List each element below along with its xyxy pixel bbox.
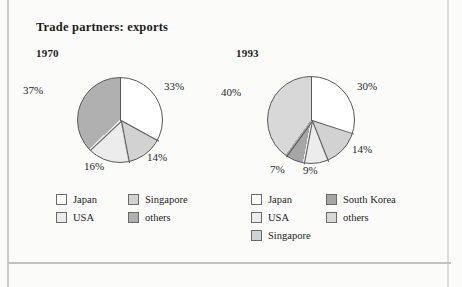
legend-label-japan: Japan — [73, 194, 97, 205]
legend-swatch-usa — [251, 212, 262, 223]
legend-item-usa[interactable]: USA — [56, 212, 128, 223]
page-border-right — [447, 0, 449, 287]
legend-label-others: others — [343, 212, 369, 223]
legend-item-usa[interactable]: USA — [251, 212, 326, 223]
pct-label-1993-korea: 7% — [270, 163, 285, 175]
pie-slice-divider — [90, 121, 122, 151]
legend-swatch-japan — [251, 194, 262, 205]
legend-item-others[interactable]: others — [128, 212, 171, 223]
page-title: Trade partners: exports — [36, 20, 168, 35]
legend-label-usa: USA — [73, 212, 94, 223]
chart-1970-year-label: 1970 — [36, 47, 59, 59]
legend-swatch-south-korea — [326, 194, 337, 205]
pct-label-1970-japan: 33% — [164, 80, 184, 92]
legend-row: USA others — [56, 208, 188, 226]
pie-slice-divider — [121, 120, 159, 142]
pct-label-1993-singapore: 14% — [352, 143, 372, 155]
pct-label-1993-japan: 30% — [357, 80, 377, 92]
pct-label-1970-others: 37% — [23, 84, 43, 96]
pct-label-1993-others: 40% — [221, 86, 241, 98]
legend-swatch-japan — [56, 194, 67, 205]
legend-label-usa: USA — [268, 212, 289, 223]
legend-row: Singapore — [251, 226, 396, 244]
legend-item-singapore[interactable]: Singapore — [251, 230, 311, 241]
legend-swatch-others — [128, 212, 139, 223]
legend-row: Japan South Korea — [251, 190, 396, 208]
legend-row: USA others — [251, 208, 396, 226]
pie-slice-divider — [312, 120, 354, 135]
legend-item-japan[interactable]: Japan — [56, 194, 128, 205]
chart-page: Trade partners: exports 1970 33% 14% 16%… — [0, 0, 462, 287]
pct-label-1993-usa: 9% — [303, 164, 318, 176]
legend-item-japan[interactable]: Japan — [251, 194, 326, 205]
legend-item-others[interactable]: others — [326, 212, 369, 223]
legend-swatch-singapore — [128, 194, 139, 205]
pct-label-1970-usa: 16% — [84, 160, 104, 172]
legend-label-singapore: Singapore — [145, 194, 188, 205]
legend-1970: Japan Singapore USA others — [56, 190, 188, 226]
legend-label-singapore: Singapore — [268, 230, 311, 241]
legend-label-south-korea: South Korea — [343, 194, 396, 205]
legend-1993: Japan South Korea USA others Singapore — [251, 190, 396, 244]
pct-label-1970-singapore: 14% — [147, 151, 167, 163]
legend-item-south-korea[interactable]: South Korea — [326, 194, 396, 205]
page-divider-bottom — [8, 262, 451, 264]
legend-item-singapore[interactable]: Singapore — [128, 194, 188, 205]
legend-label-japan: Japan — [268, 194, 292, 205]
legend-label-others: others — [145, 212, 171, 223]
pie-slice-divider — [311, 77, 312, 121]
page-border-left — [7, 0, 9, 287]
legend-row: Japan Singapore — [56, 190, 188, 208]
legend-swatch-singapore — [251, 230, 262, 241]
pie-slice-divider — [121, 121, 130, 163]
chart-1993-year-label: 1993 — [236, 47, 259, 59]
pie-slice-divider — [120, 78, 121, 121]
pie-chart-1993 — [267, 76, 355, 164]
legend-swatch-others — [326, 212, 337, 223]
legend-swatch-usa — [56, 212, 67, 223]
pie-slice-divider — [312, 121, 329, 162]
